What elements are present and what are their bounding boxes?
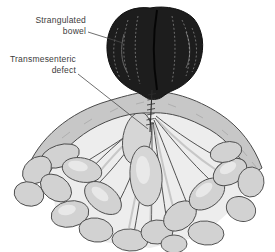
medical-illustration: Strangulated bowel Transmesenteric defec… [0,0,275,252]
illustration-artwork [0,0,275,252]
label-transmesenteric-defect-line1: Transmesenteric [0,54,76,65]
label-strangulated-bowel: Strangulated bowel [0,15,86,37]
label-transmesenteric-defect-line2: defect [0,65,76,76]
strangulated-bowel-mass [107,7,203,99]
bowel-loop [161,235,187,252]
label-strangulated-bowel-line1: Strangulated [0,15,86,26]
label-strangulated-bowel-line2: bowel [0,26,86,37]
label-transmesenteric-defect: Transmesenteric defect [0,54,76,76]
